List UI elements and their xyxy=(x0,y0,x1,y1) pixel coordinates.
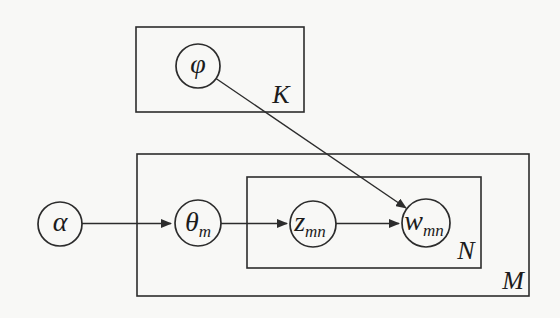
node-w-mn-subscript: mn xyxy=(423,221,444,240)
node-phi-label: φ xyxy=(190,48,206,79)
plate-N-label: N xyxy=(456,236,476,265)
node-theta-m-subscript: m xyxy=(199,222,211,241)
plate-M-label: M xyxy=(501,266,525,295)
edge-phi-to-w-arrow xyxy=(216,79,406,209)
plate-diagram: α φ θm zmn wmn K N M xyxy=(0,0,560,318)
node-alpha-label: α xyxy=(53,206,69,237)
figure-canvas: α φ θm zmn wmn K N M xyxy=(0,0,560,318)
node-z-mn-subscript: mn xyxy=(305,222,326,241)
plate-K-label: K xyxy=(271,80,291,109)
